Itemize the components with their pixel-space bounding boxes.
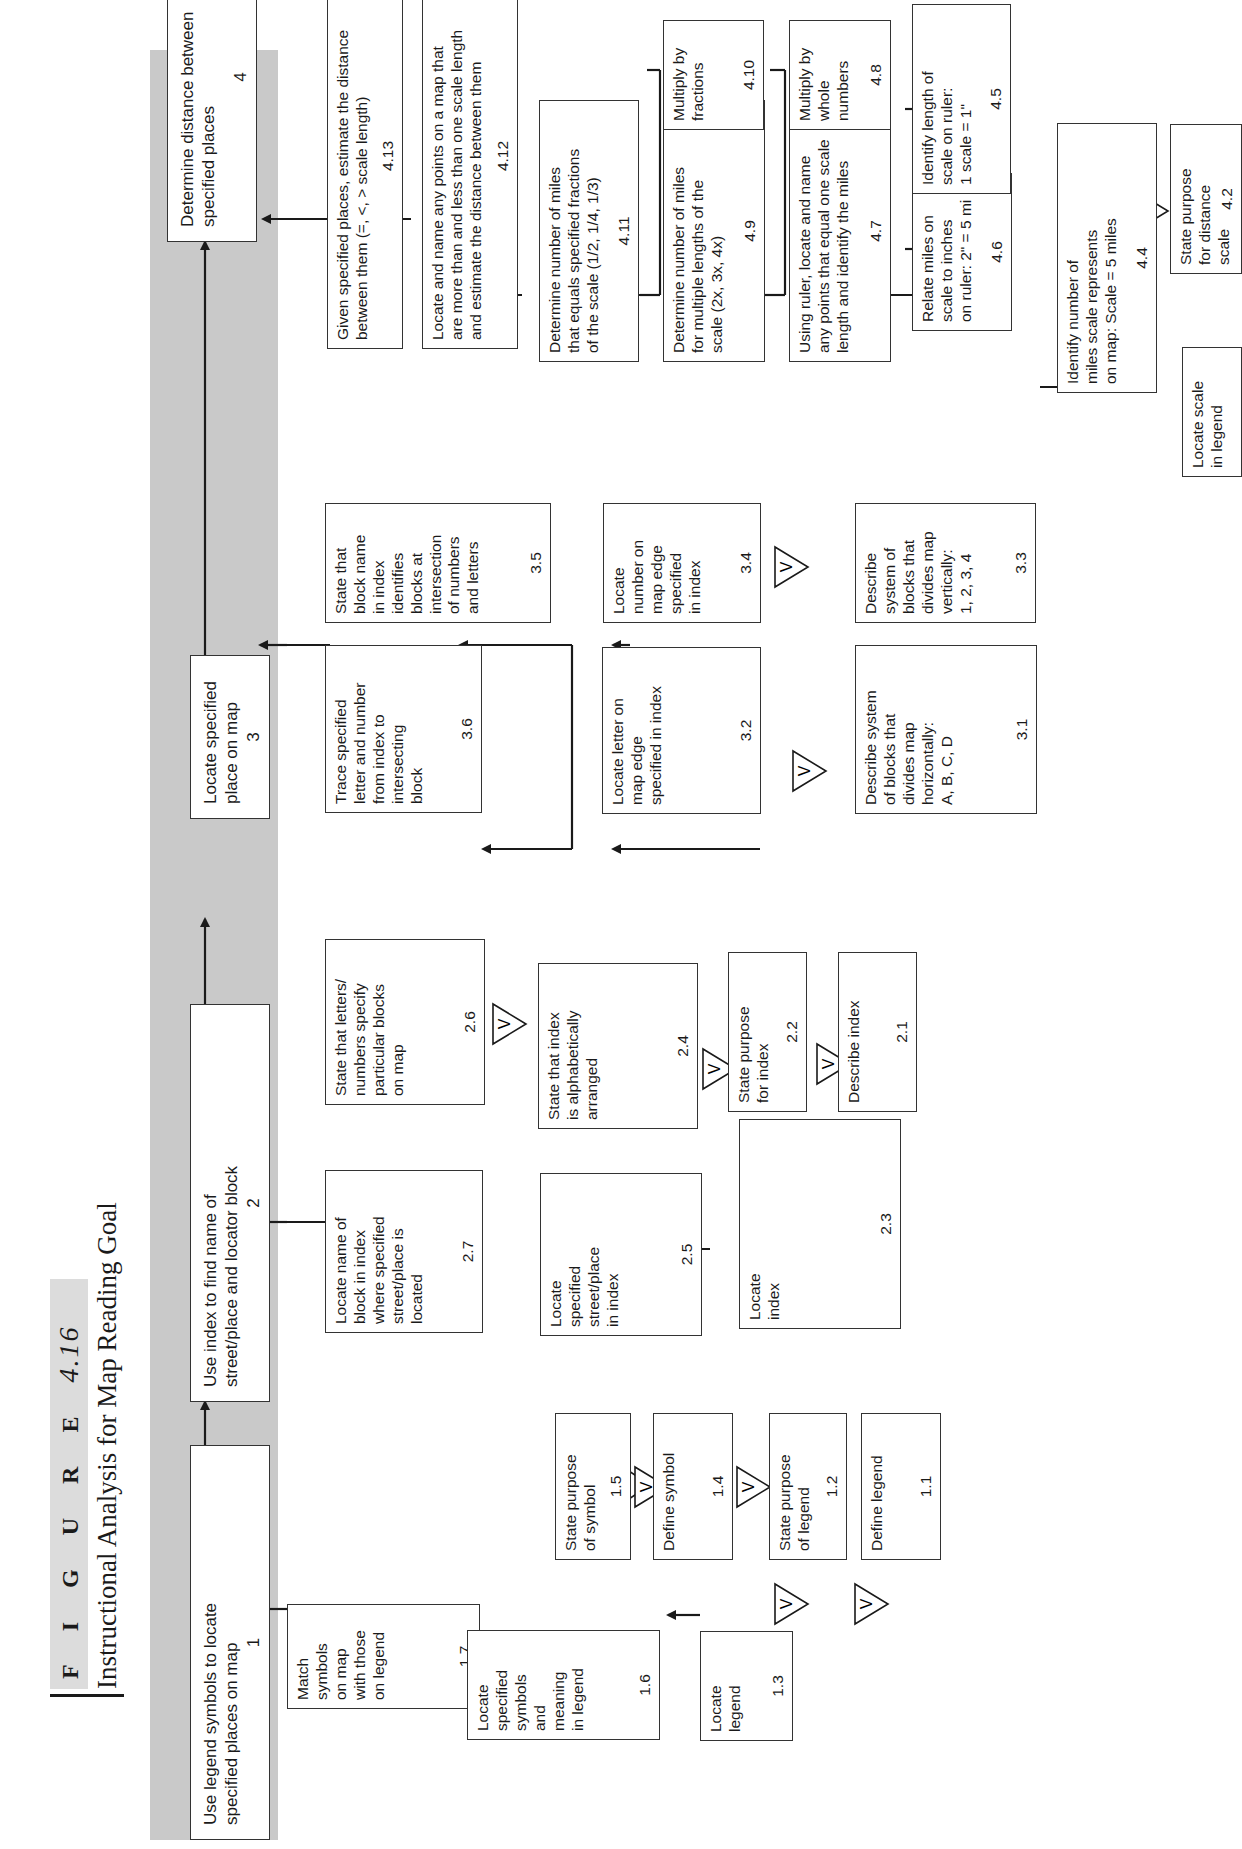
step-2-7: Locate name of block in index where spec…	[325, 1170, 483, 1333]
step-4-8: Multiply by whole numbers 4.8	[789, 20, 891, 130]
goal-box-2: Use index to find name of street/place a…	[190, 1004, 270, 1402]
figure-title: Instructional Analysis for Map Reading G…	[92, 1202, 123, 1689]
step-4-5: Identify length of scale on ruler: 1 sca…	[912, 4, 1011, 194]
step-4-10: Multiply by fractions 4.10	[663, 20, 764, 130]
svg-text:V: V	[796, 765, 813, 776]
step-2-5: Locate specified street/place in index 2…	[540, 1173, 702, 1336]
goal-box-3: Locate specified place on map 3	[190, 655, 270, 819]
svg-text:V: V	[706, 1063, 723, 1074]
step-1-5: State purpose of symbol 1.5	[555, 1413, 631, 1560]
goal-box-1: Use legend symbols to locate specified p…	[190, 1445, 270, 1840]
rotated-figure-page: F I G U R E 4.16 Instructional Analysis …	[0, 0, 1242, 1849]
step-4-6: Relate miles on scale to inches on ruler…	[912, 173, 1012, 331]
step-3-4: Locate number on map edge specified in i…	[603, 503, 761, 623]
svg-text:V: V	[820, 1058, 837, 1069]
step-2-2: State purpose for index 2.2	[728, 952, 807, 1112]
triangle-1-4-verbal-info-icon: V	[737, 1467, 770, 1507]
svg-text:V: V	[740, 1481, 757, 1492]
step-3-5: State that block name in index identifie…	[325, 503, 551, 623]
step-1-6: Locate specified symbols and meaning in …	[467, 1630, 660, 1740]
triangle-3-2-verbal-info-icon: V	[793, 751, 826, 791]
goal-box-4: Determine distance between specified pla…	[167, 0, 257, 242]
triangle-1-2-verbal-info-icon: V	[775, 1584, 808, 1624]
step-4-13: Given specified places, estimate the dis…	[327, 0, 403, 349]
figure-label: F I G U R E 4.16	[50, 1279, 88, 1689]
step-2-3: Locate index 2.3	[739, 1119, 901, 1329]
step-3-2: Locate letter on map edge specified in i…	[602, 647, 761, 814]
step-4-7: Using ruler, locate and name any points …	[789, 100, 891, 362]
figure-label-text: F I G U R E	[57, 1403, 83, 1679]
step-4-9: Determine number of miles for multiple l…	[663, 100, 765, 362]
step-1-1: Define legend 1.1	[861, 1413, 941, 1560]
step-1-7: Match symbols on map with those on legen…	[287, 1604, 480, 1709]
step-4-3: Locate scale in legend	[1182, 347, 1242, 477]
step-4-12: Locate and name any points on a map that…	[422, 0, 518, 349]
step-2-4: State that index is alphabetically arran…	[538, 963, 698, 1129]
svg-text:V: V	[778, 561, 795, 572]
step-2-1: Describe index 2.1	[838, 952, 917, 1112]
triangle-2-6-verbal-info-icon: V	[493, 1004, 526, 1044]
step-1-3: Locate legend 1.3	[700, 1631, 793, 1741]
step-4-4: Identify number of miles scale represent…	[1057, 123, 1157, 393]
triangle-1-1-verbal-info-icon: V	[855, 1584, 888, 1624]
step-4-2: State purpose for distance scale 4.2	[1170, 124, 1242, 274]
svg-text:V: V	[778, 1598, 795, 1609]
step-4-11: Determine number of miles that equals sp…	[539, 100, 639, 362]
step-3-6: Trace specified letter and number from i…	[325, 645, 482, 813]
step-3-3: Describe system of blocks that divides m…	[855, 503, 1036, 623]
step-1-4: Define symbol 1.4	[653, 1413, 733, 1560]
step-2-6: State that letters/ numbers specify part…	[325, 939, 485, 1105]
triangle-3-4-verbal-info-icon: V	[775, 547, 808, 587]
step-3-1: Describe system of blocks that divides m…	[855, 645, 1037, 814]
step-1-2: State purpose of legend 1.2	[769, 1413, 847, 1560]
figure-rule	[50, 1694, 124, 1697]
svg-text:V: V	[496, 1018, 513, 1029]
svg-text:V: V	[858, 1598, 875, 1609]
figure-number: 4.16	[53, 1326, 84, 1383]
